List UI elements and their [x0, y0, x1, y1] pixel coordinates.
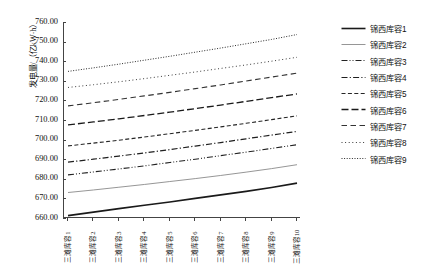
legend-swatch-icon	[341, 138, 366, 147]
y-axis-tick-mark	[63, 218, 66, 219]
y-axis-tick-label: 760.00	[10, 17, 58, 26]
y-axis-tick-label: 710.00	[10, 115, 58, 124]
legend-swatch-icon	[341, 24, 366, 33]
legend-swatch-icon	[341, 89, 366, 98]
series-line	[68, 131, 297, 162]
legend-item[interactable]: 锦西库容8	[341, 134, 426, 150]
legend-swatch-icon	[341, 121, 366, 130]
x-axis-tick-label: 三滩库容8	[240, 221, 250, 273]
plot-area	[63, 22, 300, 218]
legend-swatch-icon	[341, 73, 366, 82]
legend: 锦西库容1锦西库容2锦西库容3锦西库容4锦西库容5锦西库容6锦西库容7锦西库容8…	[341, 20, 426, 167]
x-axis-tick-label: 三滩库容9	[266, 221, 276, 273]
legend-item-label: 锦西库容5	[370, 87, 407, 99]
series-line	[68, 145, 297, 175]
legend-item[interactable]: 锦西库容1	[341, 20, 426, 36]
legend-item-label: 锦西库容1	[370, 22, 407, 34]
legend-item[interactable]: 锦西库容5	[341, 85, 426, 101]
y-axis-tick-label: 660.00	[10, 213, 58, 222]
line-chart: 发电量/（亿kW·h） 660.00670.00680.00690.00700.…	[0, 0, 426, 277]
y-axis-tick-label: 740.00	[10, 56, 58, 65]
x-axis-tick-mark	[271, 218, 272, 221]
legend-item[interactable]: 锦西库容9	[341, 150, 426, 166]
x-axis-tick-label: 三滩库容5	[164, 221, 174, 273]
x-axis-tick-label: 三滩库容2	[87, 221, 97, 273]
legend-item[interactable]: 锦西库容2	[341, 36, 426, 52]
legend-item[interactable]: 锦西库容6	[341, 101, 426, 117]
legend-item[interactable]: 锦西库容7	[341, 118, 426, 134]
legend-item-label: 锦西库容9	[370, 153, 407, 165]
x-axis-tick-mark	[245, 218, 246, 221]
x-axis-tick-mark	[169, 218, 170, 221]
y-axis-tick-label: 750.00	[10, 36, 58, 45]
series-line	[68, 73, 297, 106]
legend-item-label: 锦西库容7	[370, 120, 407, 132]
legend-item-label: 锦西库容2	[370, 38, 407, 50]
y-axis-tick-label: 670.00	[10, 193, 58, 202]
legend-item[interactable]: 锦西库容4	[341, 69, 426, 85]
legend-item-label: 锦西库容3	[370, 55, 407, 67]
x-axis-tick-mark	[220, 218, 221, 221]
legend-item-label: 锦西库容6	[370, 104, 407, 116]
x-axis-tick-label: 三滩库容3	[113, 221, 123, 273]
legend-swatch-icon	[341, 40, 366, 49]
x-axis-tick-mark	[143, 218, 144, 221]
x-axis-tick-label: 三滩库容4	[138, 221, 148, 273]
legend-swatch-icon	[341, 56, 366, 65]
legend-swatch-icon	[341, 105, 366, 114]
x-axis-tick-mark	[194, 218, 195, 221]
y-axis-tick-label: 690.00	[10, 154, 58, 163]
x-axis-tick-label: 三滩库容7	[215, 221, 225, 273]
legend-item-label: 锦西库容8	[370, 136, 407, 148]
x-axis-tick-label: 三滩库容1	[62, 221, 72, 273]
series-line	[68, 183, 297, 216]
x-axis-tick-mark	[92, 218, 93, 221]
x-axis-tick-mark	[296, 218, 297, 221]
y-axis-tick-label: 680.00	[10, 173, 58, 182]
x-axis-tick-label: 三滩库容10	[291, 221, 301, 273]
legend-item-label: 锦西库容4	[370, 71, 407, 83]
y-axis-tick-label: 730.00	[10, 75, 58, 84]
y-axis-tick-label: 700.00	[10, 134, 58, 143]
legend-item[interactable]: 锦西库容3	[341, 53, 426, 69]
y-axis-tick-label: 720.00	[10, 95, 58, 104]
x-axis-tick-mark	[118, 218, 119, 221]
legend-swatch-icon	[341, 154, 366, 163]
series-lines	[64, 22, 301, 218]
x-axis-tick-label: 三滩库容6	[189, 221, 199, 273]
series-line	[68, 35, 297, 72]
x-axis-tick-mark	[67, 218, 68, 221]
series-line	[68, 57, 297, 87]
series-line	[68, 94, 297, 125]
